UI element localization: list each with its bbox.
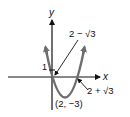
y-intercept-label: 1 — [42, 62, 47, 72]
curve-arrow-right-icon — [83, 47, 85, 54]
vertex-label: (2, −3) — [55, 98, 83, 109]
curve-arrow-left-icon — [46, 47, 48, 54]
root-left-leader — [55, 40, 78, 75]
root-left-label: 2 − √3 — [69, 28, 96, 39]
parabola-diagram: y x 1 2 − √3 2 + √3 (2, −3) — [0, 0, 130, 117]
y-axis-label: y — [48, 7, 55, 18]
root-right-label: 2 + √3 — [87, 85, 114, 96]
x-axis-label: x — [102, 71, 109, 82]
